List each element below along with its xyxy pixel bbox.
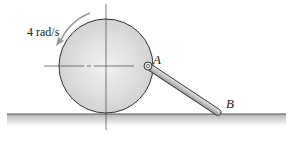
rod-ab (146, 63, 222, 116)
angular-velocity-label: 4 rad/s (27, 25, 59, 40)
point-b-label: B (226, 96, 234, 112)
pin-a-icon (144, 62, 152, 70)
point-a-label: A (153, 52, 161, 68)
diagram-canvas (0, 0, 292, 145)
ground (7, 114, 286, 126)
